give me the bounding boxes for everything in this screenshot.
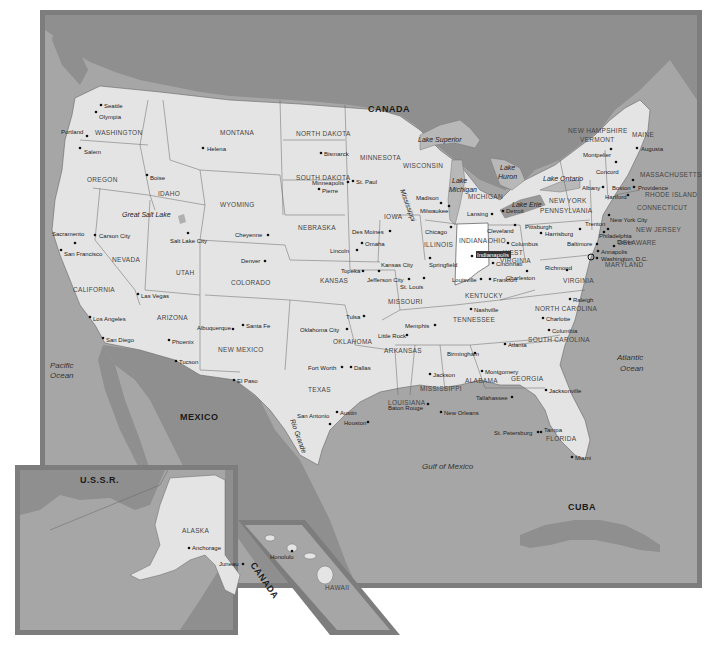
- label-lake-erie: Lake Erie: [512, 201, 542, 208]
- label-maine: MAINE: [632, 131, 654, 138]
- label-maryland: MARYLAND: [605, 261, 643, 268]
- city-madison: Madison: [416, 195, 439, 201]
- label-florida: FLORIDA: [546, 435, 577, 442]
- label-oregon: OREGON: [87, 176, 118, 183]
- city-des-moines: Des Moines: [352, 229, 384, 235]
- city-trenton: Trenton: [585, 221, 605, 227]
- city-montpelier: Montpelier: [583, 152, 611, 158]
- label-lake-superior: Lake Superior: [418, 136, 462, 144]
- city-concord: Concord: [596, 169, 619, 175]
- city-chicago: Chicago: [425, 229, 448, 235]
- city-juneau: Juneau: [219, 561, 239, 567]
- label-iowa: IOWA: [384, 213, 403, 220]
- label-pacific-2: Ocean: [50, 371, 74, 380]
- city-jefferson-city: Jefferson City: [367, 277, 404, 283]
- city-denver: Denver: [241, 258, 260, 264]
- label-vermont: VERMONT: [580, 136, 615, 143]
- city-hartford: Hartford: [605, 194, 627, 200]
- city-milwaukee: Milwaukee: [420, 208, 449, 214]
- label-colorado: COLORADO: [231, 279, 271, 286]
- city-lansing: Lansing: [467, 211, 488, 217]
- city-omaha: Omaha: [365, 241, 385, 247]
- city-santa-fe: Santa Fe: [246, 323, 271, 329]
- label-lake-ontario: Lake Ontario: [543, 175, 583, 182]
- city-pittsburgh: Pittsburgh: [525, 224, 552, 230]
- city-st-petersburg: St. Petersburg: [494, 430, 532, 436]
- city-seattle: Seattle: [104, 103, 123, 109]
- city-dover: Dover: [617, 239, 633, 245]
- city-cincinnati: Cincinnati: [496, 261, 522, 267]
- label-atlantic-1: Atlantic: [616, 353, 643, 362]
- label-washington: WASHINGTON: [95, 129, 142, 136]
- label-arizona: ARIZONA: [157, 314, 188, 321]
- label-arkansas: ARKANSAS: [384, 347, 422, 354]
- city-atlanta: Atlanta: [508, 342, 527, 348]
- label-north-carolina: NORTH CAROLINA: [535, 305, 598, 312]
- city-annapolis: Annapolis: [601, 249, 627, 255]
- label-new-hampshire: NEW HAMPSHIRE: [568, 127, 628, 134]
- city-baton-rouge: Baton Rouge: [388, 405, 424, 411]
- city-jackson: Jackson: [433, 372, 455, 378]
- label-pacific-1: Pacific: [50, 361, 74, 370]
- city-olympia: Olympia: [99, 114, 122, 120]
- label-mississippi-state: MISSISSIPPI: [420, 385, 462, 392]
- city-philadelphia: Philadelphia: [599, 233, 632, 239]
- label-wisconsin: WISCONSIN: [403, 162, 443, 169]
- city-charlotte: Charlotte: [546, 316, 571, 322]
- city-birmingham: Birmingham: [447, 351, 479, 357]
- label-michigan: MICHIGAN: [468, 193, 503, 200]
- city-phoenix: Phoenix: [172, 339, 194, 345]
- label-texas: TEXAS: [308, 386, 331, 393]
- city-columbia: Columbia: [552, 328, 578, 334]
- label-wyoming: WYOMING: [220, 201, 255, 208]
- city-pierre: Pierre: [322, 188, 339, 194]
- city-detroit: Detroit: [506, 208, 524, 214]
- city-lincoln: Lincoln: [330, 248, 349, 254]
- city-new-york-city: New York City: [610, 217, 647, 223]
- label-georgia: GEORGIA: [511, 375, 544, 382]
- city-new-orleans: New Orleans: [444, 410, 479, 416]
- city-san-francisco: San Francisco: [64, 251, 103, 257]
- city-bismarck: Bismarck: [324, 151, 350, 157]
- label-utah: UTAH: [176, 269, 194, 276]
- label-new-york: NEW YORK: [549, 197, 587, 204]
- label-gulf: Gulf of Mexico: [422, 462, 474, 471]
- city-raleigh: Raleigh: [573, 297, 593, 303]
- city-dallas: Dallas: [354, 365, 371, 371]
- label-massachusetts: MASSACHUSETTS: [640, 171, 702, 178]
- city-baltimore: Baltimore: [567, 241, 593, 247]
- city-anchorage: Anchorage: [192, 545, 222, 551]
- city-los-angeles: Los Angeles: [93, 316, 126, 322]
- city-albany: Albany: [582, 185, 600, 191]
- city-el-paso: El Paso: [237, 378, 258, 384]
- city-richmond: Richmond: [545, 265, 572, 271]
- us-map: CANADA MEXICO CUBA U.S.S.R. CANADA Pacif…: [0, 0, 718, 654]
- city-st-louis: St. Louis: [400, 284, 423, 290]
- label-nevada: NEVADA: [112, 256, 140, 263]
- city-springfield: Springfield: [429, 262, 457, 268]
- city-fort-worth: Fort Worth: [308, 365, 336, 371]
- city-carson-city: Carson City: [99, 233, 130, 239]
- label-alabama: ALABAMA: [465, 377, 498, 384]
- city-sacramento: Sacramento: [52, 231, 85, 237]
- label-ussr: U.S.S.R.: [80, 475, 119, 485]
- city-kansas-city: Kansas City: [381, 262, 413, 268]
- label-connecticut: CONNECTICUT: [637, 204, 688, 211]
- label-kentucky: KENTUCKY: [465, 292, 503, 299]
- city-albuquerque: Albuquerque: [197, 325, 232, 331]
- label-new-mexico: NEW MEXICO: [218, 346, 264, 353]
- label-north-dakota: NORTH DAKOTA: [296, 130, 351, 137]
- label-tennessee: TENNESSEE: [453, 316, 495, 323]
- label-indiana: INDIANA: [459, 237, 488, 244]
- label-lake-michigan-1: Lake: [452, 177, 467, 184]
- label-ohio: OHIO: [488, 237, 506, 244]
- label-rhode-island: RHODE ISLAND: [645, 191, 697, 198]
- city-boston: Boston: [612, 185, 631, 191]
- city-houston: Houston: [344, 420, 366, 426]
- city-miami: Miami: [575, 455, 591, 461]
- label-alaska: ALASKA: [182, 527, 209, 534]
- city-salt-lake-city: Salt Lake City: [170, 238, 207, 244]
- city-portland: Portland: [61, 129, 83, 135]
- city-honolulu: Honolulu: [270, 554, 294, 560]
- label-montana: MONTANA: [220, 129, 254, 136]
